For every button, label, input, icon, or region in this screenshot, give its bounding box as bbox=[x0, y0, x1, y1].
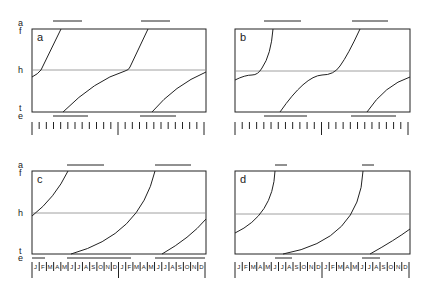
month-label: S bbox=[178, 264, 182, 270]
month-label: M bbox=[251, 264, 256, 270]
label-e: e bbox=[18, 112, 23, 121]
month-label: D bbox=[113, 264, 118, 270]
month-label: A bbox=[142, 264, 146, 270]
month-label: J bbox=[157, 264, 160, 270]
month-label: J bbox=[324, 264, 327, 270]
tick-row-a bbox=[32, 122, 204, 135]
month-label: O bbox=[302, 264, 307, 270]
month-label: A bbox=[55, 264, 59, 270]
month-label: M bbox=[48, 264, 53, 270]
month-labels-c: JFMAMJJASONDJFMAMJJASOND bbox=[34, 264, 204, 270]
panel-a bbox=[32, 21, 206, 116]
month-label: F bbox=[244, 264, 248, 270]
month-label: F bbox=[41, 264, 45, 270]
panel-d bbox=[235, 165, 410, 258]
label-e-c: e bbox=[18, 254, 23, 263]
month-label: J bbox=[121, 264, 124, 270]
month-label: S bbox=[382, 264, 386, 270]
month-label: M bbox=[338, 264, 343, 270]
panel-c bbox=[32, 165, 206, 258]
month-label: M bbox=[352, 264, 357, 270]
month-label: J bbox=[70, 264, 73, 270]
panel-label-c: c bbox=[37, 174, 43, 185]
month-label: N bbox=[192, 264, 196, 270]
month-label: N bbox=[396, 264, 400, 270]
label-h: h bbox=[18, 66, 23, 75]
month-label: N bbox=[106, 264, 110, 270]
month-labels-d: JFMAMJJASONDJFMAMJJASOND bbox=[237, 264, 408, 270]
month-label: F bbox=[127, 264, 131, 270]
month-label: M bbox=[265, 264, 270, 270]
month-label: J bbox=[164, 264, 167, 270]
month-label: N bbox=[309, 264, 313, 270]
month-label: D bbox=[316, 264, 321, 270]
month-label: A bbox=[345, 264, 349, 270]
month-label: A bbox=[258, 264, 262, 270]
month-label: S bbox=[91, 264, 95, 270]
month-label: J bbox=[237, 264, 240, 270]
month-label: A bbox=[374, 264, 378, 270]
tick-row-b bbox=[235, 122, 408, 135]
month-label: J bbox=[360, 264, 363, 270]
label-f-c: f bbox=[19, 169, 22, 178]
month-label: A bbox=[84, 264, 88, 270]
month-label: M bbox=[148, 264, 153, 270]
figure-canvas: JFMAMJJASONDJFMAMJJASOND JFMAMJJASONDJFM… bbox=[0, 0, 424, 291]
label-f: f bbox=[19, 27, 22, 36]
month-label: J bbox=[77, 264, 80, 270]
month-label: A bbox=[287, 264, 291, 270]
panel-label-b: b bbox=[240, 32, 246, 43]
month-label: S bbox=[295, 264, 299, 270]
month-label: A bbox=[171, 264, 175, 270]
month-label: J bbox=[281, 264, 284, 270]
panel-label-a: a bbox=[37, 32, 43, 43]
month-label: O bbox=[389, 264, 394, 270]
month-label: O bbox=[185, 264, 190, 270]
month-label: O bbox=[98, 264, 103, 270]
panel-label-d: d bbox=[240, 174, 246, 185]
month-label: M bbox=[134, 264, 139, 270]
label-h-c: h bbox=[18, 209, 23, 218]
month-label: J bbox=[34, 264, 37, 270]
panel-b bbox=[235, 21, 410, 116]
month-label: J bbox=[368, 264, 371, 270]
month-label: M bbox=[62, 264, 67, 270]
month-label: F bbox=[331, 264, 335, 270]
month-label: J bbox=[273, 264, 276, 270]
month-label: D bbox=[403, 264, 408, 270]
month-label: D bbox=[199, 264, 204, 270]
